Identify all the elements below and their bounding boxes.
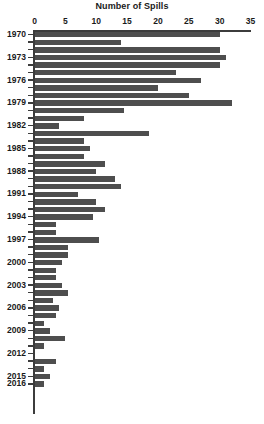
bar-row: 1979	[0, 99, 264, 107]
y-tick-mark	[28, 338, 34, 339]
bar-row	[0, 342, 264, 350]
bar-row: 1985	[0, 145, 264, 153]
bar-row: 2006	[0, 304, 264, 312]
bar-1997	[35, 237, 100, 242]
bar-2010	[35, 336, 66, 341]
y-tick-mark	[28, 41, 34, 42]
y-tick-mark	[28, 208, 34, 209]
bar-2007	[35, 313, 57, 318]
bar-row	[0, 320, 264, 328]
y-tick-mark	[28, 292, 34, 293]
bar-row: 2003	[0, 282, 264, 290]
bar-2016	[35, 381, 44, 386]
y-tick-mark	[28, 117, 34, 118]
bar-1974	[35, 62, 220, 67]
y-tick-mark	[28, 300, 34, 301]
bar-row	[0, 130, 264, 138]
bar-1987	[35, 161, 106, 166]
y-tick-mark	[28, 201, 34, 202]
y-tick-mark	[28, 186, 34, 187]
y-tick-mark	[28, 360, 34, 361]
bar-row: 2015	[0, 373, 264, 381]
y-tick-mark	[28, 64, 34, 65]
y-tick-mark	[28, 330, 34, 331]
bar-row	[0, 297, 264, 305]
chart-title: Number of Spills	[0, 1, 264, 11]
bar-row	[0, 289, 264, 297]
y-tick-mark	[28, 95, 34, 96]
bar-row	[0, 274, 264, 282]
bar-row	[0, 107, 264, 115]
y-tick-mark	[28, 102, 34, 103]
y-tick-mark	[28, 155, 34, 156]
bar-row	[0, 175, 264, 183]
y-axis-label-2016: 2016	[0, 378, 26, 389]
bar-row	[0, 198, 264, 206]
y-tick-mark	[28, 383, 34, 384]
bar-row	[0, 92, 264, 100]
bar-row	[0, 228, 264, 236]
bar-1989	[35, 176, 115, 181]
bar-1973	[35, 55, 226, 60]
bar-row	[0, 266, 264, 274]
bar-1988	[35, 169, 97, 174]
y-tick-mark	[28, 110, 34, 111]
y-tick-mark	[28, 345, 34, 346]
y-tick-mark	[28, 140, 34, 141]
bar-row	[0, 39, 264, 47]
bar-row: 2012	[0, 350, 264, 358]
spills-bar-chart: Number of Spills 05101520253035 19701973…	[0, 0, 264, 424]
bar-2009	[35, 328, 50, 333]
bar-1981	[35, 116, 84, 121]
x-tick-label-5: 5	[63, 16, 68, 26]
y-tick-mark	[28, 79, 34, 80]
bar-1991	[35, 192, 78, 197]
y-tick-mark	[28, 34, 34, 35]
x-tick-label-35: 35	[246, 16, 255, 26]
bar-row: 1997	[0, 236, 264, 244]
y-tick-mark	[28, 353, 34, 354]
y-tick-mark	[28, 284, 34, 285]
bar-2014	[35, 366, 44, 371]
bar-2008	[35, 321, 44, 326]
bar-2005	[35, 298, 54, 303]
y-tick-mark	[28, 307, 34, 308]
y-tick-mark	[28, 178, 34, 179]
bar-row	[0, 115, 264, 123]
y-tick-mark	[28, 193, 34, 194]
y-tick-mark	[28, 125, 34, 126]
x-tick-label-15: 15	[122, 16, 131, 26]
y-tick-mark	[28, 224, 34, 225]
y-tick-mark	[28, 368, 34, 369]
bar-row	[0, 244, 264, 252]
y-tick-mark	[28, 87, 34, 88]
bar-2004	[35, 290, 69, 295]
bar-1993	[35, 207, 106, 212]
bar-1986	[35, 154, 84, 159]
bar-row: 1991	[0, 190, 264, 198]
bar-1985	[35, 146, 91, 151]
bar-2003	[35, 283, 63, 288]
bar-1983	[35, 131, 149, 136]
bar-2000	[35, 260, 63, 265]
y-tick-mark	[28, 133, 34, 134]
bar-1996	[35, 230, 57, 235]
bar-1972	[35, 47, 220, 52]
bar-row	[0, 61, 264, 69]
bar-row: 1973	[0, 54, 264, 62]
y-tick-mark	[28, 216, 34, 217]
bar-1975	[35, 70, 177, 75]
y-tick-mark	[28, 57, 34, 58]
bar-1978	[35, 93, 189, 98]
y-tick-mark	[28, 239, 34, 240]
bar-row	[0, 160, 264, 168]
bar-row: 2000	[0, 259, 264, 267]
plot-area: 1970197319761979198219851988199119941997…	[0, 31, 264, 416]
bar-2011	[35, 343, 44, 348]
bar-2015	[35, 374, 50, 379]
y-tick-mark	[28, 322, 34, 323]
y-tick-mark	[28, 148, 34, 149]
bar-row: 1976	[0, 77, 264, 85]
y-tick-mark	[28, 163, 34, 164]
bar-row	[0, 251, 264, 259]
